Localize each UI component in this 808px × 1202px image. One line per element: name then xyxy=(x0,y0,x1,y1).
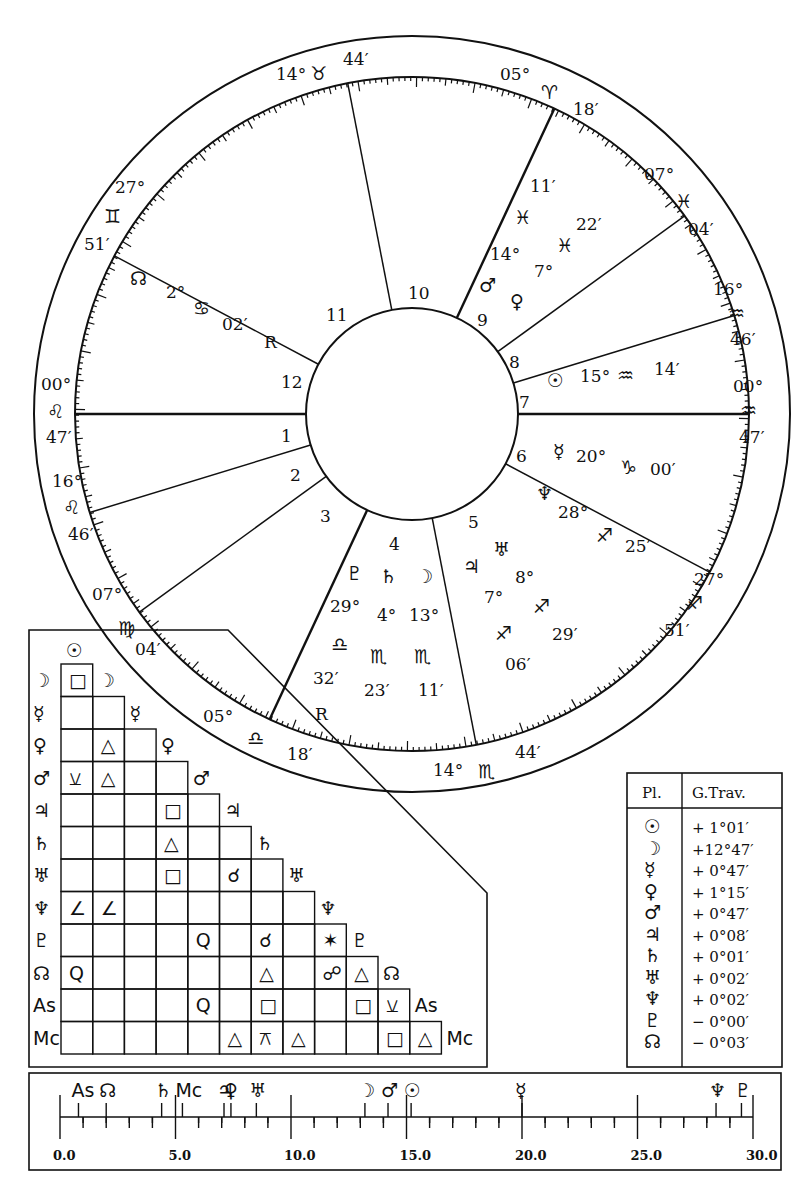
aspect-cell xyxy=(283,989,315,1022)
degree-tick xyxy=(666,196,669,199)
house-cusp-line xyxy=(498,216,685,352)
dial-marker: ♄ xyxy=(155,1079,172,1101)
degree-tick xyxy=(255,709,257,713)
degree-tick xyxy=(260,711,262,715)
travel-value: + 0°01′ xyxy=(692,948,749,966)
dial-tick-label: 10.0 xyxy=(284,1148,316,1163)
aspect-cell xyxy=(93,794,125,827)
degree-tick xyxy=(144,615,147,617)
cusp-7-deg: 00° xyxy=(733,376,763,396)
house-cusp-line xyxy=(432,518,476,745)
degree-tick xyxy=(181,168,184,171)
grid-row-label: ♇ xyxy=(33,929,50,951)
degree-tick xyxy=(204,149,206,152)
mars-deg: 14° xyxy=(490,244,520,264)
degree-tick xyxy=(714,554,718,556)
aspect-cell xyxy=(188,794,220,827)
degree-tick xyxy=(547,715,550,721)
aspect-symbol: △ xyxy=(164,832,179,854)
degree-tick xyxy=(166,642,169,645)
degree-tick xyxy=(594,693,596,696)
degree-tick xyxy=(165,185,168,188)
cusp-8-min: 46′ xyxy=(730,329,756,349)
degree-tick xyxy=(370,80,371,84)
grid-diagonal-label: ♃ xyxy=(225,799,242,821)
degree-tick xyxy=(341,85,342,89)
node-deg: 2° xyxy=(166,282,185,302)
degree-tick xyxy=(680,607,686,611)
degree-tick xyxy=(79,466,89,468)
degree-tick xyxy=(611,144,613,147)
grid-diagonal-label: ☽ xyxy=(98,669,115,691)
aspect-symbol: △ xyxy=(291,1027,306,1049)
degree-tick xyxy=(186,164,189,167)
degree-tick xyxy=(378,742,379,749)
degree-tick xyxy=(78,462,82,463)
aspect-symbol: △ xyxy=(101,734,116,756)
saturn-icon: ♄ xyxy=(380,565,397,587)
degree-tick xyxy=(358,81,360,91)
degree-tick xyxy=(559,713,561,717)
grid-diagonal-label: ♄ xyxy=(256,832,273,854)
degree-tick xyxy=(361,743,362,747)
degree-tick xyxy=(480,84,481,88)
travel-value: − 0°00′ xyxy=(692,1013,749,1031)
cusp-12-sign: ♊ xyxy=(104,205,121,227)
travel-value: + 0°02′ xyxy=(692,991,749,1009)
grid-diagonal-label: ♇ xyxy=(351,929,368,951)
degree-tick xyxy=(366,744,367,748)
degree-tick xyxy=(463,81,464,85)
aspect-cell xyxy=(93,989,125,1022)
cusp-8-deg: 16° xyxy=(713,279,743,299)
degree-tick xyxy=(79,363,83,364)
degree-tick xyxy=(631,664,634,667)
degree-tick xyxy=(613,679,615,682)
degree-tick xyxy=(602,137,604,140)
degree-tick xyxy=(665,201,673,207)
node-sign: ♋ xyxy=(193,297,210,319)
degree-tick xyxy=(662,192,665,195)
degree-tick xyxy=(616,148,618,151)
degree-tick xyxy=(142,212,145,214)
cusp-4-min: 18′ xyxy=(287,744,313,764)
degree-tick xyxy=(177,172,182,177)
aspect-symbol: Q xyxy=(196,994,211,1016)
degree-tick xyxy=(717,548,721,550)
degree-tick xyxy=(598,687,602,693)
grid-row-label: ☊ xyxy=(33,962,50,984)
degree-tick xyxy=(111,262,115,264)
aspect-cell xyxy=(124,924,156,957)
degree-tick xyxy=(80,357,84,358)
degree-tick xyxy=(329,87,331,94)
degree-tick xyxy=(206,677,208,680)
sun-deg: 15° xyxy=(580,366,610,386)
aspect-cell xyxy=(220,924,252,957)
saturn-deg: 4° xyxy=(377,605,396,625)
aspect-cell xyxy=(251,859,283,892)
degree-tick xyxy=(618,676,620,679)
mercury-sign: ♑ xyxy=(620,456,637,478)
aspect-cell xyxy=(124,827,156,860)
degree-tick xyxy=(579,124,584,133)
degree-tick xyxy=(626,159,633,167)
degree-tick xyxy=(627,668,630,671)
cusp-6-min: 51′ xyxy=(664,620,690,640)
grid-row-label: ☿ xyxy=(33,702,45,724)
degree-tick xyxy=(190,161,193,164)
dial-marker: ♅ xyxy=(249,1079,266,1101)
cusp-9-deg: 07° xyxy=(644,164,674,184)
aspect-symbol: Q xyxy=(69,962,84,984)
degree-tick xyxy=(76,438,83,439)
degree-tick xyxy=(94,522,103,525)
aspect-symbol: ⚺ xyxy=(69,767,82,789)
degree-tick xyxy=(740,447,747,448)
degree-tick xyxy=(199,153,205,161)
house-4: 4 xyxy=(389,534,400,554)
house-9: 9 xyxy=(477,310,488,330)
degree-tick xyxy=(187,662,190,665)
aspect-symbol: ⚻ xyxy=(259,1027,272,1049)
degree-tick xyxy=(83,484,87,485)
degree-tick xyxy=(104,278,108,280)
degree-tick xyxy=(352,82,353,86)
aspect-cell xyxy=(188,957,220,990)
